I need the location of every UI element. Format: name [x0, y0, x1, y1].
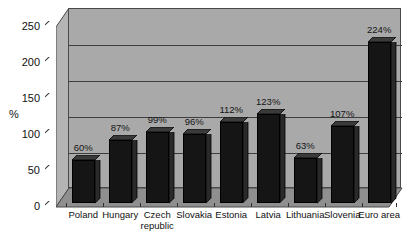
bar-value-label: 112%	[212, 105, 251, 115]
y-axis-tick-label: 0	[6, 201, 40, 212]
bar-side-face	[132, 140, 137, 203]
bar-side-face	[391, 42, 396, 203]
y-axis-tick-mark	[45, 93, 56, 104]
bar-value-label: 60%	[64, 143, 103, 153]
y-axis-tick-mark	[45, 129, 56, 140]
bar-front-face	[294, 158, 317, 203]
bar[interactable]	[72, 155, 95, 203]
bar-top-face	[257, 109, 286, 114]
y-axis-tick-label: 100	[6, 129, 40, 140]
y-axis-tick-label: 150	[6, 93, 40, 104]
bar[interactable]	[331, 121, 354, 203]
x-axis-tick-mark	[362, 203, 363, 207]
y-axis-tick-label: 200	[6, 57, 40, 68]
bar-top-face	[294, 153, 323, 158]
bar[interactable]	[368, 37, 391, 203]
x-axis-tick-mark	[177, 203, 178, 207]
bar[interactable]	[183, 129, 206, 203]
bar[interactable]	[220, 117, 243, 203]
bar-top-face	[183, 129, 212, 134]
x-axis-tick-mark	[396, 203, 397, 207]
bar-top-face	[220, 117, 249, 122]
bar-top-face	[146, 127, 175, 132]
bar-value-label: 99%	[138, 115, 177, 125]
bar-front-face	[368, 42, 391, 203]
bar-value-label: 107%	[323, 109, 362, 119]
bar-front-face	[72, 160, 95, 203]
bar-value-label: 63%	[286, 141, 325, 151]
bar-side-face	[354, 126, 359, 203]
bar[interactable]	[109, 135, 132, 203]
x-axis-tick-mark	[103, 203, 104, 207]
y-axis-tick-label: 250	[6, 21, 40, 32]
x-axis-tick-label-line: Euro area	[352, 209, 406, 220]
bar-side-face	[169, 132, 174, 203]
x-axis-tick-mark	[288, 203, 289, 207]
bar-front-face	[183, 134, 206, 203]
bar-side-face	[243, 122, 248, 203]
bar-front-face	[109, 140, 132, 203]
x-axis-tick-label-line: republic	[130, 220, 184, 231]
bar-front-face	[331, 126, 354, 203]
y-axis-tick-mark	[45, 165, 56, 176]
bar-front-face	[257, 114, 280, 203]
bar-side-face	[206, 134, 211, 203]
bar-front-face	[146, 132, 169, 203]
bar[interactable]	[257, 109, 280, 203]
bar-side-face	[95, 160, 100, 203]
y-axis-tick-mark	[45, 21, 56, 32]
bar-top-face	[72, 155, 101, 160]
x-axis-tick-mark	[251, 203, 252, 207]
x-axis-tick-mark	[140, 203, 141, 207]
y-axis-tick-mark	[45, 57, 56, 68]
bar-chart: % 050100150200250 PolandHungaryCzechrepu…	[0, 0, 414, 243]
bar-top-face	[109, 135, 138, 140]
bar-front-face	[220, 122, 243, 203]
y-axis-tick-label: 50	[6, 165, 40, 176]
bar-value-label: 96%	[175, 117, 214, 127]
y-axis-title: %	[9, 108, 19, 120]
bar[interactable]	[146, 127, 169, 203]
bar-value-label: 123%	[249, 97, 288, 107]
bar-value-label: 87%	[101, 123, 140, 133]
x-axis-tick-mark	[325, 203, 326, 207]
bar-side-face	[280, 114, 285, 203]
x-axis-tick-label: Euro area	[352, 209, 406, 220]
x-axis-tick-mark	[214, 203, 215, 207]
bar-top-face	[331, 121, 360, 126]
bar-side-face	[317, 158, 322, 203]
bar[interactable]	[294, 153, 317, 203]
y-axis-tick-mark	[45, 201, 56, 212]
x-axis-tick-mark	[66, 203, 67, 207]
bar-top-face	[368, 37, 397, 42]
bar-value-label: 224%	[360, 25, 399, 35]
